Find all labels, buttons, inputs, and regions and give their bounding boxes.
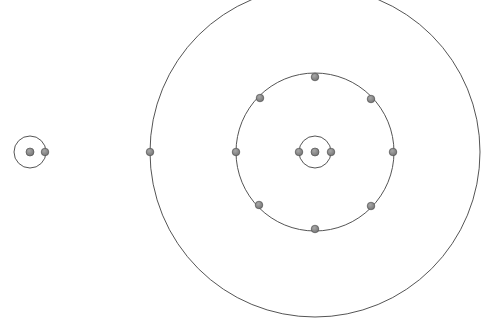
electron — [232, 148, 240, 156]
electron — [255, 201, 263, 209]
electron — [146, 148, 154, 156]
electron — [327, 148, 335, 156]
large-atom — [146, 0, 480, 317]
small-atom — [14, 136, 49, 168]
electron — [256, 94, 264, 102]
electron — [41, 148, 49, 156]
electron — [367, 95, 375, 103]
nucleus — [26, 148, 34, 156]
electron — [389, 148, 397, 156]
electron — [367, 202, 375, 210]
orbit-shell-3 — [150, 0, 480, 317]
electron — [295, 148, 303, 156]
nucleus — [311, 148, 319, 156]
electron — [311, 225, 319, 233]
atom-diagram — [0, 0, 492, 321]
electron — [311, 73, 319, 81]
